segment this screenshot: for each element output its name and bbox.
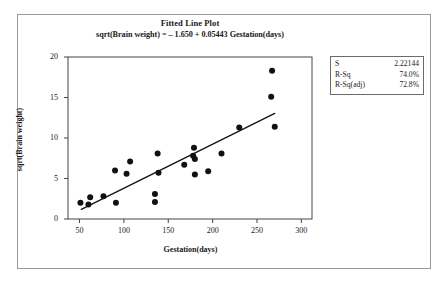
x-tick-label: 300 xyxy=(286,226,316,235)
fitted-line-plot-figure: Fitted Line Plot sqrt(Brain weight) = – … xyxy=(0,0,448,288)
y-tick-label: 0 xyxy=(36,214,58,223)
x-tick-label: 100 xyxy=(109,226,139,235)
x-tick-label: 200 xyxy=(198,226,228,235)
x-tick-label: 50 xyxy=(65,226,95,235)
statistics-label: S xyxy=(335,59,339,70)
page-title: Fitted Line Plot xyxy=(60,18,320,28)
statistics-box: S2.22144R-Sq74.0%R-Sq(adj)72.8% xyxy=(330,56,424,95)
x-axis-label: Gestation(days) xyxy=(68,245,313,254)
statistics-row: R-Sq(adj)72.8% xyxy=(335,80,419,91)
x-tick-label: 150 xyxy=(153,226,183,235)
statistics-label: R-Sq xyxy=(335,70,351,81)
y-tick-label: 10 xyxy=(36,133,58,142)
statistics-row: R-Sq74.0% xyxy=(335,70,419,81)
y-tick-label: 15 xyxy=(36,93,58,102)
y-tick-label: 5 xyxy=(36,174,58,183)
y-tick-label: 20 xyxy=(36,52,58,61)
regression-equation-subtitle: sqrt(Brain weight) = – 1.650 + 0.05443 G… xyxy=(40,30,340,39)
statistics-value: 72.8% xyxy=(399,80,419,91)
statistics-value: 2.22144 xyxy=(394,59,419,70)
statistics-row: S2.22144 xyxy=(335,59,419,70)
y-axis-label: sqrt(Brain weight) xyxy=(15,90,24,190)
statistics-value: 74.0% xyxy=(399,70,419,81)
statistics-label: R-Sq(adj) xyxy=(335,80,365,91)
x-tick-label: 250 xyxy=(242,226,272,235)
